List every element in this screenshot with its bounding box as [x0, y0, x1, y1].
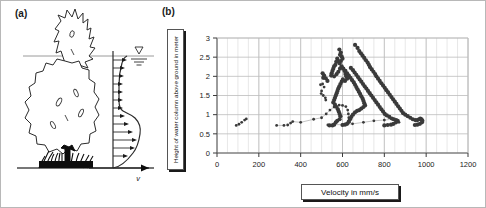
panel-a-diagram: v: [9, 1, 161, 208]
data-point: [346, 109, 349, 112]
y-tick-label: 2.5: [200, 53, 210, 62]
data-point: [324, 99, 327, 102]
data-point: [240, 121, 243, 124]
panel-a-svg: v: [9, 1, 161, 208]
data-point: [235, 124, 238, 127]
data-point: [383, 119, 386, 122]
panel-b-chart: 02004006008001000120000.511.522.53: [161, 1, 486, 208]
data-point: [283, 124, 286, 127]
data-point: [344, 105, 347, 108]
data-point: [326, 124, 329, 127]
y-tick-label: 1.5: [200, 91, 210, 100]
data-point: [322, 94, 325, 97]
velocity-arrows: [113, 58, 137, 158]
grass-base-block: [39, 161, 93, 168]
x-tick-label: 0: [215, 160, 219, 169]
data-point: [321, 76, 325, 80]
data-point: [341, 123, 344, 126]
data-point: [341, 104, 344, 107]
data-point: [398, 121, 401, 124]
data-point: [323, 86, 326, 89]
data-point: [245, 117, 248, 120]
data-point: [238, 123, 241, 126]
y-tick-label: 2: [206, 72, 210, 81]
data-point: [275, 124, 278, 127]
y-axis-label-box: Height of water column above ground in m…: [167, 29, 184, 170]
velocity-axis-arrowhead: [141, 165, 149, 172]
panel-b-label: (b): [162, 6, 175, 17]
data-point: [286, 124, 289, 127]
data-point: [413, 123, 417, 127]
data-point: [332, 123, 335, 126]
tree-crown-lower: [25, 59, 99, 154]
data-point: [372, 119, 375, 122]
x-tick-label: 1000: [418, 160, 435, 169]
x-tick-label: 1200: [460, 160, 477, 169]
x-axis-label-box: Velocity in mm/s: [301, 184, 399, 200]
y-tick-label: 3: [206, 34, 210, 43]
scatter-chart-svg: 02004006008001000120000.511.522.53: [161, 1, 486, 208]
data-point: [320, 92, 323, 95]
data-point: [320, 116, 323, 119]
y-tick-label: 0.5: [200, 130, 210, 139]
data-point: [351, 122, 354, 125]
data-point: [329, 109, 332, 112]
data-point: [320, 90, 323, 93]
data-point: [325, 79, 329, 83]
x-tick-label: 400: [294, 160, 307, 169]
x-tick-label: 800: [378, 160, 391, 169]
data-point: [321, 83, 324, 86]
axis-tick-labels: 02004006008001000120000.511.522.53: [200, 34, 477, 169]
data-point: [312, 118, 315, 121]
data-point: [291, 120, 294, 123]
y-tick-label: 0: [206, 149, 210, 158]
data-point: [347, 113, 350, 116]
data-point: [299, 121, 302, 124]
panel-a-label: (a): [15, 8, 27, 19]
data-point: [362, 121, 365, 124]
data-point: [395, 119, 398, 122]
data-point: [325, 113, 328, 116]
data-point: [391, 118, 394, 121]
data-point: [382, 123, 386, 127]
velocity-axis-label: v: [136, 174, 141, 183]
figure-container: v 02004006008001000120000.511.522.53 Hei…: [0, 0, 486, 208]
velocity-profile-curve: [113, 56, 140, 168]
y-tick-label: 1: [206, 110, 210, 119]
x-tick-label: 600: [336, 160, 349, 169]
y-axis-label-text: Height of water column above ground in m…: [168, 30, 183, 169]
x-tick-label: 200: [253, 160, 266, 169]
